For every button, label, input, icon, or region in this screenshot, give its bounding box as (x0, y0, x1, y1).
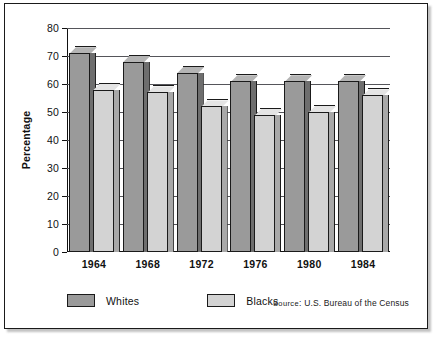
y-tick-mark (62, 56, 67, 57)
bar-front-face (230, 81, 251, 252)
bar-top-edge (368, 88, 389, 89)
bar-top-edge (344, 74, 365, 75)
bar-blacks-1964 (93, 83, 121, 252)
bar-front-face (201, 106, 222, 252)
y-tick-label: 40 (47, 134, 59, 146)
y-tick-mark (62, 84, 67, 85)
bar-group (123, 28, 175, 252)
x-tick-label-1984: 1984 (351, 258, 376, 270)
bar-front-face (284, 81, 305, 252)
bar-top-edge (260, 108, 281, 109)
bar-group (338, 28, 390, 252)
bar-side-face (167, 92, 174, 252)
y-tick-mark (62, 28, 67, 29)
bar-side-face (328, 112, 335, 252)
x-tick-label-1980: 1980 (297, 258, 322, 270)
source-prefix-label: Source (273, 299, 299, 308)
x-tick-label-1964: 1964 (82, 258, 107, 270)
bar-blacks-1980 (308, 105, 336, 252)
bar-top-edge (129, 55, 150, 56)
bar-top-edge (153, 85, 174, 86)
y-tick-mark (62, 168, 67, 169)
y-tick-mark (62, 196, 67, 197)
bar-top-edge (99, 83, 120, 84)
bar-blacks-1968 (147, 85, 175, 252)
bar-top-edge (290, 74, 311, 75)
bar-side-face (382, 95, 389, 252)
source-note: Source: U.S. Bureau of the Census (273, 298, 409, 308)
bar-side-face (274, 115, 281, 252)
y-axis-title: Percentage (19, 28, 33, 252)
legend-item-blacks: Blacks (207, 294, 278, 307)
chart-figure: Percentage 01020304050607080 19641968197… (4, 3, 428, 329)
bar-top-edge (75, 46, 96, 47)
bar-blacks-1976 (254, 108, 282, 252)
bar-front-face (254, 115, 275, 252)
bar-top-edge (236, 74, 257, 75)
bar-group (284, 28, 336, 252)
bar-group (69, 28, 121, 252)
y-tick-label: 20 (47, 190, 59, 202)
bar-side-face (113, 90, 120, 252)
bar-front-face (123, 62, 144, 252)
source-text: U.S. Bureau of the Census (304, 298, 409, 308)
blacks-swatch (207, 294, 235, 307)
legend: WhitesBlacks (67, 294, 278, 307)
bar-group (177, 28, 229, 252)
y-tick-label: 70 (47, 50, 59, 62)
bar-front-face (362, 95, 383, 252)
plot-area: 01020304050607080 (67, 28, 390, 252)
x-tick-label-1976: 1976 (243, 258, 268, 270)
bar-group (230, 28, 282, 252)
legend-item-whites: Whites (67, 294, 139, 307)
y-tick-mark (62, 252, 67, 253)
y-tick-label: 80 (47, 22, 59, 34)
bar-side-face (221, 106, 228, 252)
y-tick-mark (62, 112, 67, 113)
bar-front-face (93, 90, 114, 252)
bar-front-face (177, 73, 198, 252)
bar-top-edge (183, 66, 204, 67)
legend-label-whites: Whites (106, 295, 139, 307)
bar-top-edge (314, 105, 335, 106)
y-tick-label: 10 (47, 218, 59, 230)
bar-top-edge (207, 99, 228, 100)
y-tick-mark (62, 224, 67, 225)
bar-blacks-1972 (201, 99, 229, 252)
y-tick-label: 0 (53, 246, 59, 258)
y-tick-label: 60 (47, 78, 59, 90)
bar-blacks-1984 (362, 88, 390, 252)
bar-front-face (69, 53, 90, 252)
y-tick-label: 50 (47, 106, 59, 118)
whites-swatch (67, 294, 95, 307)
x-tick-label-1968: 1968 (135, 258, 160, 270)
bar-front-face (338, 81, 359, 252)
source-separator: : (299, 298, 302, 308)
y-tick-mark (62, 140, 67, 141)
y-tick-label: 30 (47, 162, 59, 174)
bar-front-face (147, 92, 168, 252)
bar-front-face (308, 112, 329, 252)
x-tick-label-1972: 1972 (189, 258, 214, 270)
